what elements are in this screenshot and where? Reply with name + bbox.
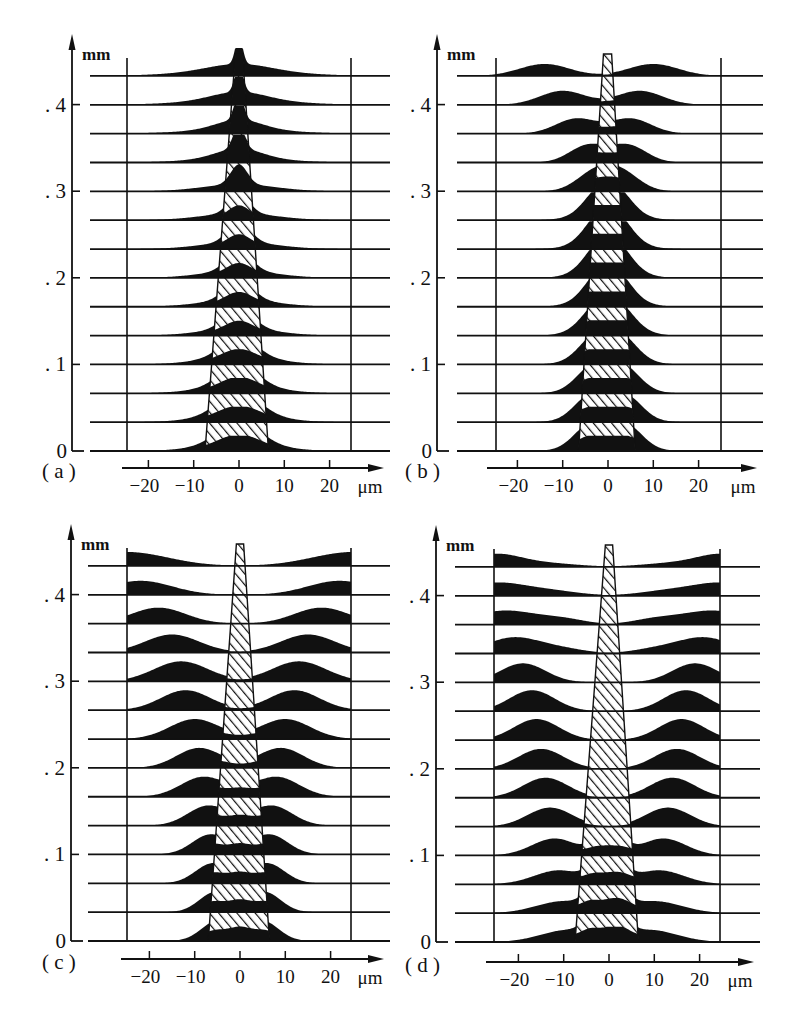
y-tick-label: . 2 [410,266,431,290]
x-axis-arrow-icon [741,464,757,472]
x-tick-label: 0 [234,475,244,496]
x-tick-label: −20 [130,475,160,496]
x-tick-label: −10 [544,475,574,496]
y-axis-arrow-icon [434,34,441,50]
x-axis-arrow-icon [368,955,384,963]
y-tick-label: . 3 [44,669,65,693]
y-tick-label: . 3 [409,670,430,694]
y-axis-arrow-icon [69,34,76,50]
x-tick-label: −20 [499,475,529,496]
y-tick-label: . 4 [409,584,431,608]
x-tick-label: 0 [604,969,614,990]
y-tick-label: . 3 [410,179,431,203]
x-tick-label: 20 [320,475,339,496]
x-tick-label: −20 [500,969,530,990]
y-tick-label: . 4 [44,583,66,607]
x-tick-label: 0 [235,966,245,987]
core-profile [203,899,274,912]
x-tick-label: 0 [603,475,613,496]
x-tick-label: 10 [645,969,664,990]
panel-label: ( d ) [405,953,440,977]
y-tick-label: . 2 [44,756,65,780]
x-tick-label: 10 [275,475,294,496]
y-tick-label: . 4 [410,93,432,117]
core-profile [573,407,640,422]
y-tick-label: 0 [421,930,432,954]
x-tick-label: 20 [689,475,708,496]
y-unit-label: mm [447,45,475,64]
panel-label: ( c ) [42,950,76,974]
x-unit-label: μm [358,476,383,497]
y-tick-label: . 3 [45,179,66,203]
y-tick-label: . 2 [409,757,430,781]
y-tick-label: . 4 [45,93,67,117]
x-unit-label: μm [358,967,383,988]
panel-d: 0. 1. 2. 3. 4mm−20−1001020μm( d ) [405,525,760,991]
y-tick-label: . 1 [45,352,66,376]
x-unit-label: μm [728,970,753,991]
x-tick-label: 20 [690,969,709,990]
x-axis-arrow-icon [738,958,754,966]
x-tick-label: −20 [131,966,161,987]
x-tick-label: −10 [545,969,575,990]
x-tick-label: 10 [276,966,295,987]
y-unit-label: mm [82,45,110,64]
panel-label: ( a ) [42,459,76,483]
x-unit-label: μm [731,476,756,497]
x-tick-label: −10 [175,475,205,496]
y-unit-label: mm [446,536,474,555]
x-tick-label: −10 [176,966,206,987]
y-tick-label: . 1 [409,843,430,867]
y-axis-arrow-icon [433,525,440,541]
core-profile [203,871,274,883]
core-profile [573,436,640,451]
x-tick-label: 20 [321,966,340,987]
y-tick-label: . 1 [44,842,65,866]
panel-b: 0. 1. 2. 3. 4mm−20−1001020μm( b ) [405,34,763,497]
figure-canvas: 0. 1. 2. 3. 4mm−20−1001020μm( a ) 0. 1. … [0,0,795,1028]
x-tick-label: 10 [644,475,663,496]
y-tick-label: . 2 [45,266,66,290]
panel-a: 0. 1. 2. 3. 4mm−20−1001020μm( a ) [42,34,390,497]
panel-label: ( b ) [405,459,440,483]
y-unit-label: mm [81,535,109,554]
x-axis-arrow-icon [368,464,384,472]
y-tick-label: . 1 [410,352,431,376]
y-axis-arrow-icon [68,524,75,540]
panel-c: 0. 1. 2. 3. 4mm−20−1001020μm( c ) [42,524,390,988]
